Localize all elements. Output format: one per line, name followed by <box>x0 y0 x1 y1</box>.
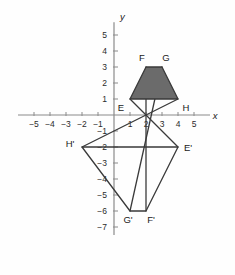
x-tick-label: −3 <box>61 119 71 129</box>
vertex-label-G: G <box>162 52 169 63</box>
x-tick-label: 3 <box>160 119 165 129</box>
vertex-label-F: F <box>139 52 145 63</box>
y-axis-label: y <box>119 11 126 22</box>
y-tick-label: 1 <box>102 94 107 104</box>
coordinate-plane-figure: −5−4−3−2−11234554321−1−2−3−4−5−6−7xyEFGH… <box>0 0 235 275</box>
vertex-label-H-prime: H' <box>66 138 75 149</box>
y-tick-label: −7 <box>97 222 107 232</box>
y-tick-label: 2 <box>102 78 107 88</box>
preimage-trapezoid <box>130 67 178 99</box>
y-tick-label: −6 <box>97 206 107 216</box>
vertex-label-G-prime: G' <box>123 214 132 225</box>
vertex-label-E: E <box>118 102 124 113</box>
y-tick-label: −3 <box>97 158 107 168</box>
vertex-label-E-prime: E' <box>184 142 192 153</box>
y-tick-label: −5 <box>97 190 107 200</box>
x-tick-label: −5 <box>29 119 39 129</box>
y-tick-label: 3 <box>102 62 107 72</box>
vertex-label-H: H <box>183 102 190 113</box>
x-tick-label: 5 <box>192 119 197 129</box>
x-tick-label: −2 <box>77 119 87 129</box>
ray-E-to-Eprime <box>130 99 178 147</box>
x-tick-label: 4 <box>176 119 181 129</box>
x-axis-label: x <box>212 110 219 121</box>
dilation-diagram: −5−4−3−2−11234554321−1−2−3−4−5−6−7xyEFGH… <box>0 0 235 275</box>
y-tick-label: 4 <box>102 46 107 56</box>
y-tick-label: 5 <box>102 30 107 40</box>
vertex-label-F-prime: F' <box>147 214 155 225</box>
x-tick-label: −4 <box>45 119 55 129</box>
